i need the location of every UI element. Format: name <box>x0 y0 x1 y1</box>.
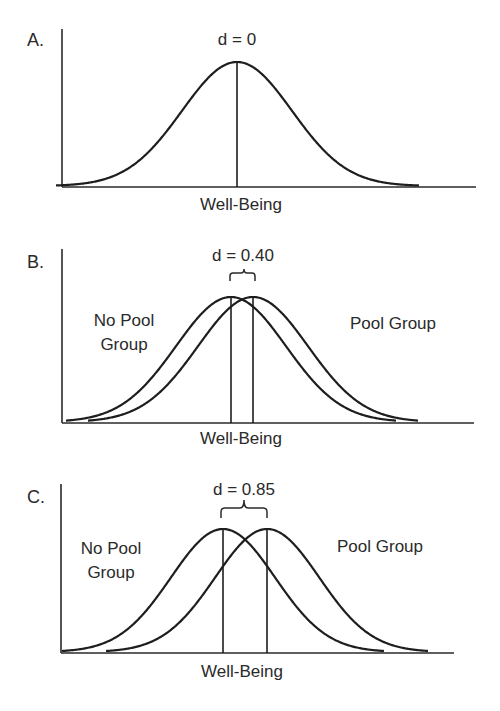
effect-size-label: d = 0 <box>218 30 256 49</box>
x-axis-label: Well-Being <box>200 195 282 214</box>
panel-label: C. <box>27 487 45 507</box>
panel-label: B. <box>27 252 44 272</box>
panel-label: A. <box>27 30 44 50</box>
no-pool-group-label: No Pool <box>94 311 154 330</box>
pool-group-label: Pool Group <box>350 314 436 333</box>
panel-a: A. d = 0 Well-Being <box>27 29 476 214</box>
panel-c: C. d = 0.85 No Pool Group Pool Group Wel… <box>27 480 454 681</box>
x-axis-label: Well-Being <box>201 662 283 681</box>
brace-icon <box>230 269 255 281</box>
no-pool-group-label: No Pool <box>81 539 141 558</box>
x-axis-label: Well-Being <box>200 429 282 448</box>
pool-group-label: Pool Group <box>337 537 423 556</box>
figure: A. d = 0 Well-Being B. d = 0.40 No Pool … <box>0 0 500 711</box>
no-pool-group-label-line2: Group <box>100 335 147 354</box>
brace-icon <box>221 500 267 518</box>
no-pool-group-label-line2: Group <box>87 563 134 582</box>
panel-b: B. d = 0.40 No Pool Group Pool Group Wel… <box>27 246 474 448</box>
effect-size-label: d = 0.85 <box>213 480 275 499</box>
effect-size-label: d = 0.40 <box>212 246 274 265</box>
